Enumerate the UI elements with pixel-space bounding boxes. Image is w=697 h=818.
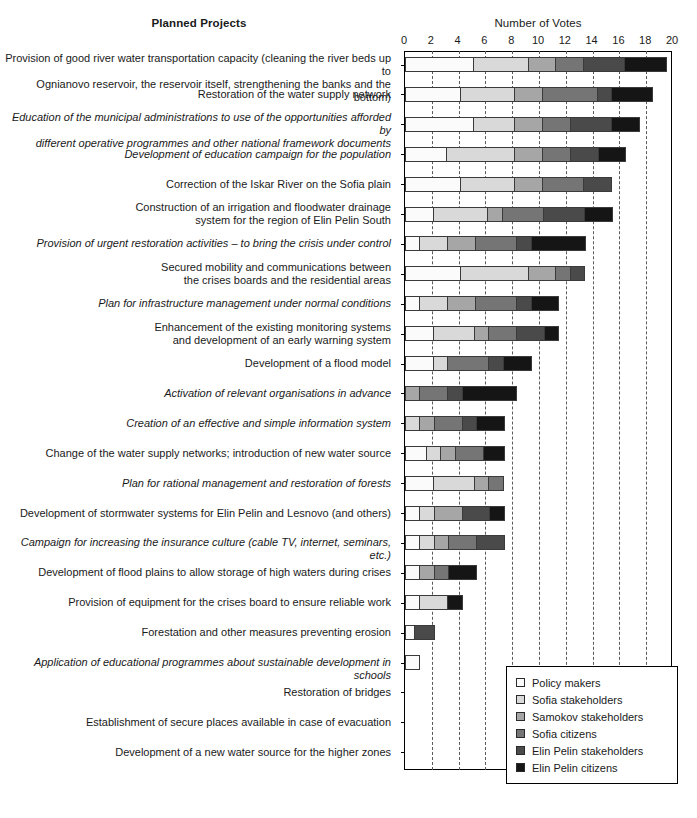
- y-label: Development of flood plains to allow sto…: [0, 566, 391, 579]
- y-label: Application of educational programmes ab…: [0, 656, 391, 682]
- x-tick-6: 6: [481, 34, 487, 46]
- y-label: Plan for rational management and restora…: [0, 477, 391, 490]
- x-tick-2: 2: [428, 34, 434, 46]
- legend-item-0[interactable]: Policy makers: [516, 674, 669, 691]
- y-label-line: Construction of an irrigation and floodw…: [0, 201, 391, 214]
- legend-label: Policy makers: [532, 677, 600, 689]
- y-label: Creation of an effective and simple info…: [0, 417, 391, 430]
- stacked-bar-chart: Planned Projects Number of Votes 0246810…: [0, 0, 697, 818]
- y-label: Education of the municipal administratio…: [0, 111, 391, 150]
- legend-item-1[interactable]: Sofia stakeholders: [516, 691, 669, 708]
- x-tick-4: 4: [455, 34, 461, 46]
- y-label: Plan for infrastructure management under…: [0, 297, 391, 310]
- legend-item-2[interactable]: Samokov stakeholders: [516, 708, 669, 725]
- y-label-line: Provision of good river water transporta…: [0, 52, 391, 78]
- y-label-line: Provision of urgent restoration activiti…: [0, 237, 391, 250]
- x-tick-0: 0: [401, 34, 407, 46]
- legend-item-4[interactable]: Elin Pelin stakeholders: [516, 742, 669, 759]
- y-label-line: Plan for infrastructure management under…: [0, 297, 391, 310]
- y-label-line: Secured mobility and communications betw…: [0, 261, 391, 274]
- legend-label: Sofia citizens: [532, 728, 597, 740]
- y-label: Development of education campaign for th…: [0, 148, 391, 161]
- y-label-line: Establishment of secure places available…: [0, 716, 391, 729]
- y-label-line: Development of education campaign for th…: [0, 148, 391, 161]
- x-tick-10: 10: [532, 34, 544, 46]
- y-label-line: Correction of the Iskar River on the Sof…: [0, 178, 391, 191]
- x-tick-12: 12: [559, 34, 571, 46]
- y-label: Construction of an irrigation and floodw…: [0, 201, 391, 227]
- y-label-line: Development of a new water source for th…: [0, 746, 391, 759]
- legend-label: Elin Pelin citizens: [532, 762, 618, 774]
- y-label-line: Change of the water supply networks; int…: [0, 447, 391, 460]
- y-label: Establishment of secure places available…: [0, 716, 391, 729]
- y-label-line: Development of stormwater systems for El…: [0, 507, 391, 520]
- legend-label: Samokov stakeholders: [532, 711, 643, 723]
- y-label-line: Development of flood plains to allow sto…: [0, 566, 391, 579]
- x-tick-8: 8: [508, 34, 514, 46]
- y-label: Provision of equipment for the crises bo…: [0, 596, 391, 609]
- legend: Policy makersSofia stakeholdersSamokov s…: [506, 666, 678, 784]
- x-tick-14: 14: [585, 34, 597, 46]
- y-label: Restoration of bridges: [0, 686, 391, 699]
- legend-label: Sofia stakeholders: [532, 694, 623, 706]
- y-label-line: Plan for rational management and restora…: [0, 477, 391, 490]
- y-label-line: Provision of equipment for the crises bo…: [0, 596, 391, 609]
- y-label-line: the crises boards and the residential ar…: [0, 274, 391, 287]
- y-axis-labels: Provision of good river water transporta…: [0, 51, 697, 770]
- y-label: Change of the water supply networks; int…: [0, 447, 391, 460]
- y-label: Restoration of the water supply network: [0, 88, 391, 101]
- y-label-line: Development of a flood model: [0, 357, 391, 370]
- y-label: Activation of relevant organisations in …: [0, 387, 391, 400]
- x-axis-title: Number of Votes: [404, 17, 672, 29]
- y-label-line: Creation of an effective and simple info…: [0, 417, 391, 430]
- legend-swatch-icon: [516, 695, 525, 704]
- x-tick-18: 18: [639, 34, 651, 46]
- y-label-line: Restoration of bridges: [0, 686, 391, 699]
- y-label-line: Forestation and other measures preventin…: [0, 626, 391, 639]
- x-tick-16: 16: [612, 34, 624, 46]
- y-label-line: Enhancement of the existing monitoring s…: [0, 321, 391, 334]
- y-label-line: Activation of relevant organisations in …: [0, 387, 391, 400]
- y-label-line: Application of educational programmes ab…: [0, 656, 391, 682]
- legend-swatch-icon: [516, 763, 525, 772]
- legend-swatch-icon: [516, 746, 525, 755]
- y-label: Development of stormwater systems for El…: [0, 507, 391, 520]
- legend-swatch-icon: [516, 729, 525, 738]
- x-tick-20: 20: [666, 34, 678, 46]
- y-label: Development of a new water source for th…: [0, 746, 391, 759]
- legend-swatch-icon: [516, 678, 525, 687]
- legend-item-3[interactable]: Sofia citizens: [516, 725, 669, 742]
- y-label: Development of a flood model: [0, 357, 391, 370]
- y-label: Provision of urgent restoration activiti…: [0, 237, 391, 250]
- y-axis-title: Planned Projects: [0, 17, 398, 29]
- y-label-line: and development of an early warning syst…: [0, 334, 391, 347]
- legend-label: Elin Pelin stakeholders: [532, 745, 643, 757]
- y-label-line: Campaign for increasing the insurance cu…: [0, 536, 391, 562]
- legend-swatch-icon: [516, 712, 525, 721]
- legend-item-5[interactable]: Elin Pelin citizens: [516, 759, 669, 776]
- y-label-line: Restoration of the water supply network: [0, 88, 391, 101]
- y-label: Secured mobility and communications betw…: [0, 261, 391, 287]
- y-label-line: system for the region of Elin Pelin Sout…: [0, 214, 391, 227]
- y-label-line: Education of the municipal administratio…: [0, 111, 391, 137]
- x-axis-tick-labels: 02468101214161820: [404, 34, 672, 49]
- y-label: Enhancement of the existing monitoring s…: [0, 321, 391, 347]
- y-label: Campaign for increasing the insurance cu…: [0, 536, 391, 562]
- y-label: Forestation and other measures preventin…: [0, 626, 391, 639]
- y-label: Correction of the Iskar River on the Sof…: [0, 178, 391, 191]
